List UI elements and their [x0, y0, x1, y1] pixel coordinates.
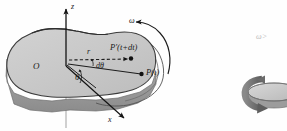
theta-label: θ	[75, 73, 79, 82]
diagram-canvas	[0, 0, 287, 131]
point-p-prime-label: P′(t+dt)	[110, 43, 137, 52]
rotating-rigid-body-diagram: z x O r θ dθ ω P(t) P′(t+dt) ω>	[0, 0, 287, 131]
point-p-t-label: P(t)	[146, 68, 159, 77]
rigid-body-shape	[7, 29, 156, 98]
z-axis-label: z	[71, 3, 74, 11]
origin-label: O	[33, 62, 40, 71]
radius-label: r	[87, 48, 90, 56]
x-axis-label: x	[108, 116, 112, 124]
d-theta-label: dθ	[96, 62, 104, 70]
omega-label: ω	[129, 17, 135, 25]
point-p-prime-marker	[129, 56, 133, 60]
point-p-t-marker	[139, 72, 143, 76]
inset-omega-condition-label: ω>	[256, 33, 267, 41]
